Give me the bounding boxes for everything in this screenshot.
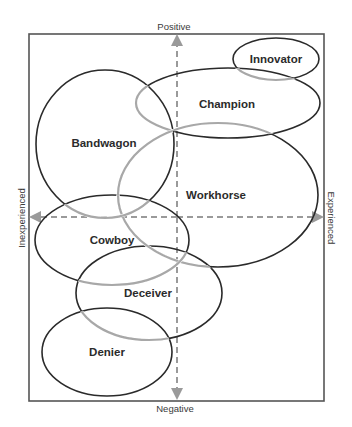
negative-axis-label: Negative — [156, 403, 194, 414]
experienced-axis-label: Experienced — [326, 192, 337, 245]
deceiver-label: Deceiver — [124, 287, 172, 299]
cowboy-label: Cowboy — [90, 234, 135, 246]
positive-axis-label: Positive — [157, 21, 190, 32]
matrix-diagram: Innovator Champion Bandwagon Workhorse C… — [0, 0, 352, 427]
bandwagon-label: Bandwagon — [71, 137, 136, 149]
inexperienced-axis-label: Inexperienced — [16, 188, 27, 248]
innovator-label: Innovator — [250, 53, 303, 65]
workhorse-label: Workhorse — [186, 189, 246, 201]
champion-label: Champion — [199, 98, 255, 110]
denier-label: Denier — [89, 346, 125, 358]
